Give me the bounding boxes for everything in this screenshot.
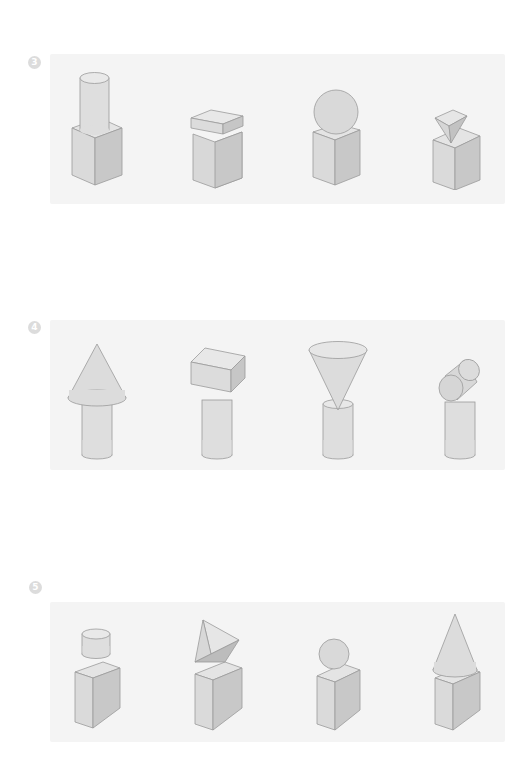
figure-box-on-cylinder[interactable] bbox=[185, 340, 255, 465]
exercise-number-badge: 5 bbox=[29, 581, 42, 594]
figure-inverted-cone-on-cylinder[interactable] bbox=[305, 340, 375, 465]
figure-box-on-cube[interactable] bbox=[185, 70, 255, 190]
figure-short-cylinder-on-box[interactable] bbox=[65, 618, 135, 733]
figure-cone-on-cylinder[interactable] bbox=[62, 340, 132, 465]
figure-cone-on-box[interactable] bbox=[425, 610, 495, 735]
exercise-row-3: 3 bbox=[0, 50, 530, 220]
exercise-number-badge: 3 bbox=[28, 56, 41, 69]
figure-cylinder-on-cube[interactable] bbox=[65, 70, 135, 190]
exercise-number-badge: 4 bbox=[28, 321, 41, 334]
exercise-row-5: 5 bbox=[0, 580, 530, 740]
figure-sphere-on-box[interactable] bbox=[305, 618, 375, 733]
figure-sideways-cylinder-on-cylinder[interactable] bbox=[425, 340, 495, 465]
figure-pyramid-on-cube[interactable] bbox=[425, 70, 495, 190]
figure-triangular-prism-on-box[interactable] bbox=[185, 610, 255, 735]
figure-sphere-on-cube[interactable] bbox=[305, 70, 375, 190]
exercise-row-4: 4 bbox=[0, 320, 530, 480]
